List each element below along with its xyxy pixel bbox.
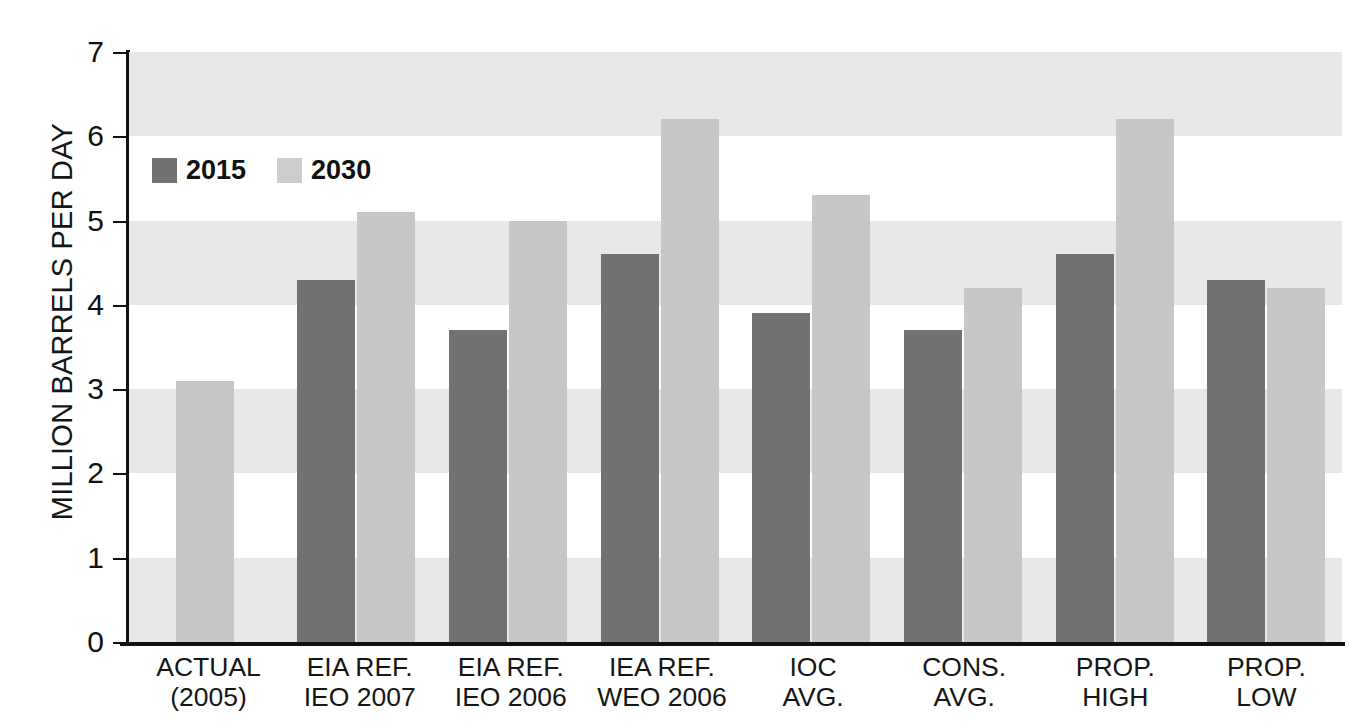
y-axis-tick [113,305,126,307]
category-label-line2: (2005) [133,682,284,712]
bar [1267,288,1325,642]
category-label-line1: ACTUAL [133,652,284,682]
bar [509,221,567,642]
category-label-line2: IEO 2006 [435,682,586,712]
y-axis-tick [113,558,126,560]
y-axis-tick-label: 5 [58,206,104,236]
category-label-line1: IOC [738,652,889,682]
y-axis-title: MILLION BARRELS PER DAY [46,22,79,622]
y-axis-tick-label: 0 [58,627,104,657]
legend-swatch-icon [152,158,177,183]
category-label: PROP.LOW [1191,650,1342,722]
bar [752,313,810,642]
bar [449,330,507,642]
category-label-line2: WEO 2006 [586,682,737,712]
y-axis-tick [113,136,126,138]
y-axis-tick [113,473,126,475]
category-label-line2: IEO 2007 [284,682,435,712]
y-axis-tick-label: 7 [58,37,104,67]
bar [812,195,870,642]
category-label-line2: LOW [1191,682,1342,712]
legend: 20152030 [152,157,389,184]
category-label-line2: AVG. [738,682,889,712]
bar [1056,254,1114,642]
y-axis-tick-label: 2 [58,458,104,488]
bar [176,381,234,642]
legend-item-2030: 2030 [277,157,371,184]
category-label: EIA REF.IEO 2007 [284,650,435,722]
y-axis-tick-label: 4 [58,290,104,320]
category-label: PROP.HIGH [1040,650,1191,722]
bar [601,254,659,642]
y-axis-tick [113,221,126,223]
legend-label: 2015 [186,157,246,184]
category-label: IEA REF.WEO 2006 [586,650,737,722]
plot-area [129,52,1342,642]
category-label: ACTUAL(2005) [133,650,284,722]
bar [1116,119,1174,642]
y-axis-tick [113,389,126,391]
category-label: EIA REF.IEO 2006 [435,650,586,722]
category-label-line1: EIA REF. [284,652,435,682]
bar [964,288,1022,642]
y-axis-tick-label: 6 [58,121,104,151]
category-label: CONS.AVG. [889,650,1040,722]
x-axis-category-labels: ACTUAL(2005)EIA REF.IEO 2007EIA REF.IEO … [133,650,1342,722]
bar [904,330,962,642]
category-label-line1: CONS. [889,652,1040,682]
bar [1207,280,1265,642]
y-axis-tick-label: 3 [58,374,104,404]
legend-item-2015: 2015 [152,157,246,184]
category-label-line1: PROP. [1191,652,1342,682]
category-label: IOCAVG. [738,650,889,722]
y-axis-tick [113,642,126,644]
bar [357,212,415,642]
category-label-line2: AVG. [889,682,1040,712]
bar [661,119,719,642]
category-label-line2: HIGH [1040,682,1191,712]
x-axis-line [120,642,1345,646]
legend-swatch-icon [277,158,302,183]
bar-chart-figure: MILLION BARRELS PER DAY 01234567 2015203… [0,0,1350,727]
category-label-line1: PROP. [1040,652,1191,682]
bar [297,280,355,642]
y-axis-tick-label: 1 [58,543,104,573]
category-label-line1: EIA REF. [435,652,586,682]
legend-label: 2030 [311,157,371,184]
category-label-line1: IEA REF. [586,652,737,682]
y-axis-tick [113,52,126,54]
